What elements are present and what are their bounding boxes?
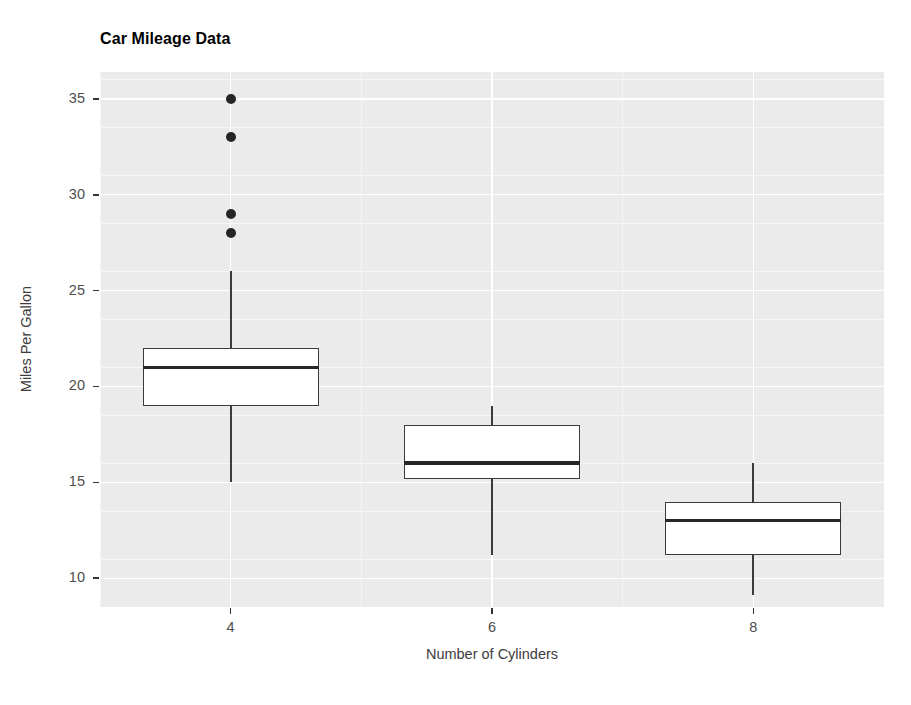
- whisker-lower: [752, 555, 754, 595]
- y-tick-label: 30: [45, 186, 85, 202]
- outlier-point: [226, 228, 236, 238]
- outlier-point: [226, 94, 236, 104]
- x-tick-label: 6: [488, 619, 496, 635]
- box-8-cylinders: [665, 502, 841, 556]
- chart-canvas: Car Mileage Data 101520253035468 Miles P…: [0, 0, 911, 705]
- whisker-upper: [491, 406, 493, 425]
- gridline-minor-vertical: [361, 72, 362, 607]
- y-tick-label: 20: [45, 377, 85, 393]
- x-tick-mark: [753, 608, 755, 614]
- median-line: [665, 519, 841, 522]
- box-4-cylinders: [143, 348, 319, 406]
- box-6-cylinders: [404, 425, 580, 479]
- x-tick-label: 8: [749, 619, 757, 635]
- outlier-point: [226, 132, 236, 142]
- y-axis-title: Miles Per Gallon: [18, 286, 34, 392]
- outlier-point: [226, 209, 236, 219]
- y-tick-label: 35: [45, 90, 85, 106]
- y-tick-mark: [93, 98, 99, 100]
- y-tick-mark: [93, 482, 99, 484]
- whisker-lower: [491, 479, 493, 556]
- x-tick-label: 4: [227, 619, 235, 635]
- whisker-upper: [752, 463, 754, 501]
- y-tick-mark: [93, 386, 99, 388]
- plot-panel: [100, 72, 884, 607]
- x-tick-mark: [491, 608, 493, 614]
- y-tick-label: 25: [45, 282, 85, 298]
- median-line: [404, 461, 580, 464]
- y-tick-mark: [93, 577, 99, 579]
- y-tick-label: 15: [45, 473, 85, 489]
- y-tick-mark: [93, 290, 99, 292]
- x-tick-mark: [230, 608, 232, 614]
- gridline-minor-vertical: [622, 72, 623, 607]
- x-axis-title: Number of Cylinders: [426, 646, 558, 662]
- y-tick-label: 10: [45, 569, 85, 585]
- whisker-upper: [230, 271, 232, 348]
- y-tick-mark: [93, 194, 99, 196]
- chart-title: Car Mileage Data: [100, 30, 231, 48]
- whisker-lower: [230, 406, 232, 483]
- median-line: [143, 366, 319, 369]
